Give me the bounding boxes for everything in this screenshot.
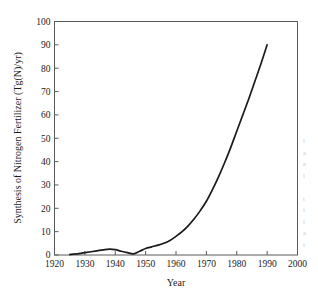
x-tick-label-1980: 1980 <box>227 259 246 269</box>
margin-text-line: l <box>303 217 318 229</box>
margin-text-line: l <box>303 171 318 183</box>
y-tick-label-40: 40 <box>41 157 51 167</box>
y-tick-label-70: 70 <box>41 87 51 97</box>
page-margin-text-fragment: laeltilai <box>303 136 318 262</box>
plot-frame <box>55 22 298 256</box>
x-tick-label-1930: 1930 <box>75 259 94 269</box>
x-tick-label-1990: 1990 <box>258 259 277 269</box>
margin-text-line: e <box>303 159 318 171</box>
margin-text-line: l <box>303 136 318 148</box>
margin-text-line: t <box>303 194 318 206</box>
margin-text-line: a <box>303 228 318 240</box>
figure-container: 0102030405060708090100 19201930194019501… <box>0 0 318 301</box>
x-tick-label-1940: 1940 <box>106 259 125 269</box>
x-axis-tick-labels: 192019301940195019601970198019902000 <box>45 259 307 269</box>
y-tick-label-90: 90 <box>41 40 51 50</box>
y-tick-label-10: 10 <box>41 227 51 237</box>
x-axis-title: Year <box>167 277 186 288</box>
margin-text-line: i <box>303 240 318 252</box>
margin-text-line <box>303 182 318 194</box>
nitrogen-fertilizer-chart: 0102030405060708090100 19201930194019501… <box>0 0 318 301</box>
y-tick-label-100: 100 <box>36 17 51 27</box>
x-tick-label-1960: 1960 <box>167 259 186 269</box>
y-tick-label-80: 80 <box>41 64 51 74</box>
y-tick-label-20: 20 <box>41 204 51 214</box>
x-tick-label-1970: 1970 <box>197 259 216 269</box>
y-tick-label-50: 50 <box>41 134 51 144</box>
x-tick-label-1920: 1920 <box>45 259 64 269</box>
margin-text-line: i <box>303 205 318 217</box>
y-axis-title: Synthesis of Nitrogen Fertilizer (Tg(N)/… <box>12 52 24 224</box>
y-axis-tick-labels: 0102030405060708090100 <box>36 17 51 261</box>
y-tick-label-60: 60 <box>41 110 51 120</box>
y-tick-label-30: 30 <box>41 180 51 190</box>
margin-text-line: a <box>303 148 318 160</box>
x-tick-label-1950: 1950 <box>136 259 155 269</box>
